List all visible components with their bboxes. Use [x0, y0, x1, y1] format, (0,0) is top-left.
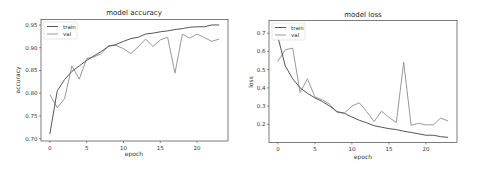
x-axis-ticks: 05101520 [276, 143, 430, 153]
y-tick-label: 0.4 [257, 85, 266, 91]
legend: train val [44, 22, 77, 39]
accuracy-chart: model accuracy 0.700.750.800.850.900.95 … [14, 9, 228, 158]
y-tick-label: 0.85 [25, 67, 38, 73]
legend-val-label: val [63, 31, 72, 37]
x-tick-label: 5 [85, 145, 89, 151]
series-line-val [278, 48, 448, 125]
x-axis-label: epoch [125, 150, 143, 158]
y-tick-label: 0.95 [25, 22, 38, 28]
y-tick-label: 0.75 [25, 113, 38, 119]
legend-train-label: train [291, 25, 304, 31]
data-series [50, 25, 219, 134]
y-tick-label: 0.80 [25, 90, 38, 96]
loss-chart: model loss 0.20.30.40.50.60.7 05101520 e… [247, 11, 457, 161]
chart-canvas: model accuracy 0.700.750.800.850.900.95 … [0, 0, 477, 172]
x-tick-label: 20 [422, 146, 429, 152]
chart-title: model accuracy [106, 9, 162, 17]
legend: train val [272, 23, 305, 40]
x-tick-label: 0 [276, 146, 280, 152]
series-line-val [50, 34, 219, 108]
y-tick-label: 0.3 [257, 103, 266, 109]
x-tick-label: 20 [194, 145, 201, 151]
y-tick-label: 0.2 [257, 121, 266, 127]
series-line-train [50, 25, 219, 134]
y-axis-ticks: 0.700.750.800.850.900.95 [25, 22, 41, 142]
y-tick-label: 0.70 [25, 136, 38, 142]
y-tick-label: 0.5 [257, 67, 266, 73]
y-tick-label: 0.6 [257, 48, 266, 54]
y-axis-ticks: 0.20.30.40.50.60.7 [257, 30, 269, 127]
chart-title: model loss [344, 11, 382, 19]
x-tick-label: 10 [348, 146, 355, 152]
x-tick-label: 5 [313, 146, 317, 152]
legend-train-label: train [63, 24, 76, 30]
y-tick-label: 0.90 [25, 45, 38, 51]
data-series [278, 37, 448, 138]
x-axis-label: epoch [354, 153, 372, 161]
x-tick-label: 15 [157, 145, 164, 151]
x-tick-label: 15 [385, 146, 392, 152]
y-axis-label: accuracy [14, 66, 22, 94]
y-tick-label: 0.7 [257, 30, 266, 36]
x-tick-label: 0 [48, 145, 52, 151]
legend-val-label: val [291, 32, 300, 38]
y-axis-label: loss [247, 76, 254, 88]
